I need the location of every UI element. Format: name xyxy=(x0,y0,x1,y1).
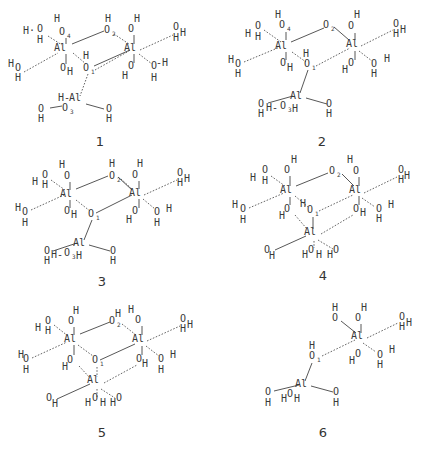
hydrogen-bond xyxy=(32,342,67,358)
atom-label: O xyxy=(88,208,94,219)
hydrogen-bond xyxy=(104,365,137,383)
covalent-bond xyxy=(84,220,92,240)
atom-label: O xyxy=(279,19,285,30)
atom-label: Al xyxy=(124,42,136,53)
atom-label: Al xyxy=(290,90,302,101)
atom-label: H xyxy=(294,393,300,404)
atom-subscript: 1 xyxy=(315,210,319,217)
atom-label: O xyxy=(64,247,70,258)
atom-label: O xyxy=(92,392,98,403)
atom-label: O xyxy=(83,62,89,73)
atom-label: H xyxy=(122,70,128,81)
atom-label: O xyxy=(158,353,164,364)
atom-label: O xyxy=(323,19,329,30)
atom-subscript: 2 xyxy=(331,25,335,32)
atom-label: H xyxy=(83,50,89,61)
atom-label: H xyxy=(166,203,172,214)
atom-label: H xyxy=(240,214,246,225)
structure-number-label: 2 xyxy=(318,134,326,149)
hydrogen-bond xyxy=(364,177,397,193)
atom-label: O xyxy=(280,100,286,111)
atom-label: H xyxy=(360,207,366,218)
structure-number-label: 3 xyxy=(98,274,106,289)
atom-label: O xyxy=(284,203,290,214)
atom-subscript: 1 xyxy=(96,214,100,221)
atom-label: H xyxy=(389,344,395,355)
covalent-bond xyxy=(72,31,104,44)
atom-label: H xyxy=(404,170,410,181)
atom-label: H xyxy=(45,325,51,336)
atom-label: H xyxy=(71,209,77,220)
atom-label: O xyxy=(353,203,359,214)
atom-label: O xyxy=(353,165,359,176)
atom-label: O xyxy=(132,169,138,180)
atom-label: H xyxy=(126,214,132,225)
atom-label: O xyxy=(309,350,315,361)
atom-label: Al xyxy=(304,226,316,237)
hydrogen-bond xyxy=(367,323,398,338)
atom-label: H xyxy=(32,176,38,187)
atom-label: H xyxy=(316,249,322,260)
atom-label: O xyxy=(60,62,66,73)
atom-label: H- xyxy=(51,249,63,260)
atom-label: H xyxy=(377,359,383,370)
atom-subscript: 2 xyxy=(117,321,121,328)
hydrogen-bond xyxy=(147,326,180,341)
atom-label: Al xyxy=(129,187,141,198)
atom-label: H xyxy=(245,28,251,39)
atom-label: H xyxy=(393,28,399,39)
atom-label: H xyxy=(22,217,28,228)
hydrogen-bond xyxy=(363,343,376,352)
atom-label: H xyxy=(8,58,14,69)
atom-label: Al xyxy=(54,42,66,53)
atom-label: H xyxy=(180,27,186,38)
atom-label: O xyxy=(116,392,122,403)
atom-label: H xyxy=(333,397,339,408)
hydrogen-bond xyxy=(321,215,353,234)
atom-label: H xyxy=(342,64,348,75)
atom-label: O xyxy=(348,57,354,68)
hydrogen-bond xyxy=(322,340,355,356)
atom-label: O xyxy=(128,60,134,71)
atom-label: O xyxy=(135,314,141,325)
atom-label: H xyxy=(158,364,164,375)
structure-number-label: 5 xyxy=(98,425,106,440)
atom-label: O xyxy=(64,205,70,216)
atom-label: H xyxy=(406,317,412,328)
structure-3: HOHOHAlHOHOHO1HO2HOAlOHOHHOHHAlOHH-O3HOH… xyxy=(15,158,190,289)
atom-label: H xyxy=(235,68,241,79)
atom-label: H xyxy=(398,174,404,185)
covalent-bond xyxy=(291,28,324,42)
atom-label: H xyxy=(291,154,297,165)
atom-label: H xyxy=(23,364,29,375)
covalent-bond xyxy=(50,106,62,108)
atom-label: Al xyxy=(275,40,287,51)
atom-label: H xyxy=(54,13,60,24)
structure-1: HO4AlH·OHHOHOHHO1HO2HOAlOHO-HHOHHH-AlO3O… xyxy=(8,13,186,149)
atom-label: H xyxy=(105,13,111,24)
atom-label: O xyxy=(132,205,138,216)
atom-subscript: 4 xyxy=(67,32,71,39)
atom-label: H- xyxy=(266,102,278,113)
atom-label: H xyxy=(399,321,405,332)
atom-label: H xyxy=(349,355,355,366)
atom-label: Al xyxy=(73,237,85,248)
atom-label: H xyxy=(376,213,382,224)
atom-label: O xyxy=(329,165,335,176)
covalent-bond xyxy=(311,386,333,392)
atom-label: O xyxy=(284,164,290,175)
atom-label: Al xyxy=(69,92,81,103)
atom-label: H xyxy=(35,322,41,333)
atom-label: H xyxy=(137,158,143,169)
atom-label: O xyxy=(355,348,361,359)
atom-label: H xyxy=(59,159,65,170)
atom-label: H xyxy=(269,250,275,261)
hydrogen-bond xyxy=(319,195,353,211)
atom-subscript: 4 xyxy=(287,25,291,32)
atom-label: H xyxy=(110,255,116,266)
atom-label: H xyxy=(37,34,43,45)
atom-label: Al xyxy=(132,333,144,344)
atom-label: H xyxy=(52,398,58,409)
atom-label: O xyxy=(308,244,314,255)
atom-label: H xyxy=(154,217,160,228)
